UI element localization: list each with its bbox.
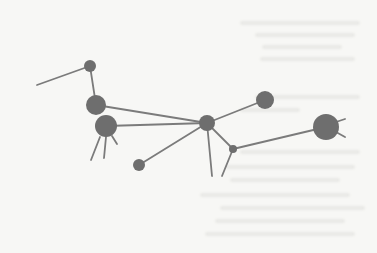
graph-node-n2	[86, 95, 106, 115]
graph-edges	[37, 66, 345, 176]
graph-node-n5	[256, 91, 274, 109]
network-graph	[0, 0, 377, 253]
dangling-edge	[222, 149, 233, 176]
graph-node-hub	[199, 115, 215, 131]
graph-node-n7	[229, 145, 237, 153]
graph-node-n8	[313, 114, 339, 140]
graph-edge	[233, 127, 326, 149]
dangling-edge	[104, 137, 106, 158]
graph-node-n3	[95, 115, 117, 137]
dangling-edge	[112, 136, 117, 144]
graph-node-n1	[84, 60, 96, 72]
graph-edge	[207, 100, 265, 123]
graph-edge	[139, 123, 207, 165]
graph-edge	[106, 123, 207, 126]
graph-node-n6	[133, 159, 145, 171]
graph-nodes	[84, 60, 339, 171]
dangling-edge	[37, 66, 90, 85]
dangling-edge	[91, 137, 100, 160]
